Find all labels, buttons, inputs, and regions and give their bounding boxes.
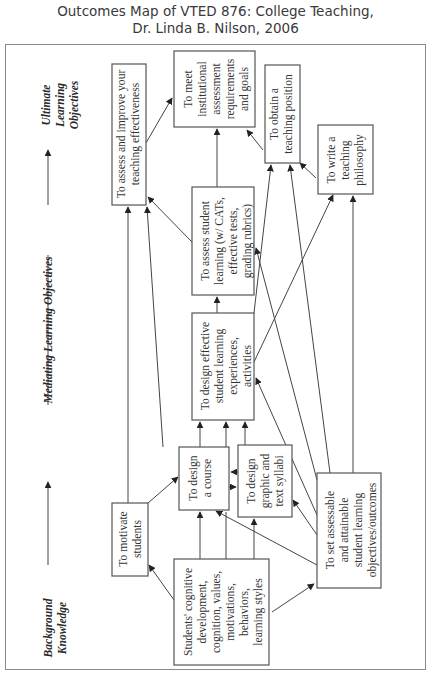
outcomes-diagram: Background Knowledge Mediating Learning … — [0, 0, 431, 675]
svg-text:a course: a course — [201, 459, 214, 497]
svg-text:To design: To design — [245, 458, 258, 503]
box-design-syllabi: To design graphic and text syllabi — [238, 445, 292, 517]
svg-text:To write a: To write a — [325, 137, 338, 184]
box-assess-student-learning: To assess student learning (w/ CATs, eff… — [192, 187, 254, 295]
box-obtain-teaching-position: To obtain a teaching position — [265, 65, 300, 163]
svg-text:requirements: requirements — [224, 58, 237, 119]
svg-text:student learning: student learning — [352, 493, 365, 568]
svg-text:and goals: and goals — [238, 66, 251, 111]
svg-text:Knowledge: Knowledge — [56, 602, 69, 655]
svg-text:activities: activities — [241, 345, 254, 387]
svg-text:behaviors,: behaviors, — [238, 588, 251, 636]
svg-text:philosophy: philosophy — [353, 134, 366, 186]
box-set-learning-objectives: To set assessable and attainable student… — [317, 473, 381, 588]
svg-text:assessment: assessment — [210, 62, 223, 114]
box-motivate-students: To motivate students — [112, 503, 148, 576]
svg-text:student learning: student learning — [213, 329, 226, 404]
svg-text:Mediating Learning Objectives: Mediating Learning Objectives — [42, 256, 55, 404]
svg-text:Objectives: Objectives — [68, 80, 81, 129]
svg-text:students: students — [131, 520, 144, 558]
box-write-teaching-philosophy: To write a teaching philosophy — [318, 125, 373, 194]
axis-label-background: Background Knowledge — [42, 598, 69, 658]
svg-text:objectives/outcomes: objectives/outcomes — [366, 482, 379, 577]
svg-text:To assess and improve your: To assess and improve your — [115, 70, 128, 199]
svg-text:motivations,: motivations, — [224, 583, 237, 641]
box-students-cognitive-development: Students' cognitive development, cogniti… — [174, 559, 269, 665]
svg-text:Students' cognitive: Students' cognitive — [182, 568, 195, 656]
axis-label-ultimate: Ultimate Learning Objectives — [40, 80, 81, 129]
svg-text:To set assessable: To set assessable — [324, 491, 337, 569]
svg-text:Background: Background — [42, 598, 55, 658]
svg-text:cognition, values,: cognition, values, — [210, 571, 223, 653]
box-design-learning-experiences: To design effective student learning exp… — [192, 313, 254, 420]
svg-text:teaching effectiveness: teaching effectiveness — [129, 82, 142, 185]
svg-text:teaching: teaching — [339, 140, 352, 179]
svg-text:and attainable: and attainable — [338, 498, 351, 563]
svg-text:Learning: Learning — [54, 83, 67, 128]
svg-text:To assess student: To assess student — [199, 200, 212, 280]
svg-text:To motivate: To motivate — [117, 511, 130, 567]
svg-text:To design effective: To design effective — [199, 322, 212, 410]
svg-text:effective tests,: effective tests, — [227, 208, 240, 275]
svg-text:To meet: To meet — [182, 69, 195, 107]
box-design-course: To design a course — [179, 447, 229, 510]
box-assess-improve-teaching: To assess and improve your teaching effe… — [112, 64, 146, 205]
axis-label-mediating: Mediating Learning Objectives — [42, 256, 55, 404]
svg-text:teaching position: teaching position — [282, 74, 295, 154]
svg-text:learning styles: learning styles — [252, 578, 265, 646]
svg-text:text syllabi: text syllabi — [273, 455, 286, 506]
svg-text:learning (w/ CATs,: learning (w/ CATs, — [213, 197, 226, 285]
svg-text:To design: To design — [187, 455, 200, 500]
svg-text:To obtain a: To obtain a — [268, 88, 281, 140]
svg-text:institutional: institutional — [196, 61, 209, 116]
svg-text:graphic and: graphic and — [259, 454, 272, 509]
svg-text:experiences,: experiences, — [227, 337, 240, 395]
svg-text:development,: development, — [196, 581, 209, 644]
svg-text:Ultimate: Ultimate — [40, 85, 52, 126]
box-meet-institutional-requirements: To meet institutional assessment require… — [174, 51, 255, 127]
svg-text:grading rubrics): grading rubrics) — [241, 204, 254, 279]
